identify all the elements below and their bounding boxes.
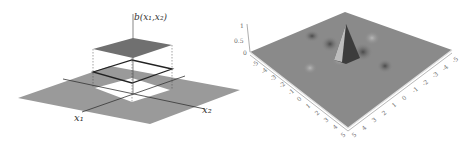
vertical-axis-label: b(x₁,x₂) (134, 12, 167, 22)
figure: b(x₁,x₂) x₁ x₂ 1 0.5 0 -5 -4 -3 -2 -1 0 … (0, 0, 467, 148)
z-axis (247, 24, 250, 52)
x2-axis-label: x₂ (202, 104, 212, 115)
figure-graphics (0, 0, 467, 148)
z-tick: 0.5 (234, 37, 244, 44)
x1-axis-label: x₁ (74, 112, 84, 123)
z-tick: 0 (243, 49, 247, 56)
surface (250, 12, 452, 128)
top-square (93, 38, 172, 58)
sinc-surface-plot (247, 12, 452, 131)
z-tick: 1 (240, 22, 244, 29)
